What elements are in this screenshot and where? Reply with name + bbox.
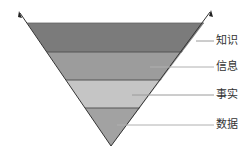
layer-facts [0,80,248,108]
pyramid-diagram [0,0,248,154]
right-arrowhead-icon [209,10,213,17]
label-facts: 事实 [216,89,238,101]
label-knowledge: 知识 [216,35,238,47]
label-information: 信息 [216,61,238,73]
label-data: 数据 [216,119,238,131]
layer-information [0,52,248,80]
